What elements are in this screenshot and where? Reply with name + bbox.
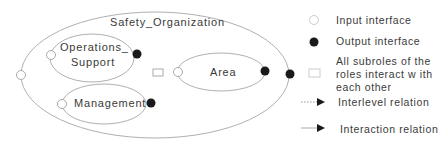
- operations-support-output-icon: [133, 50, 142, 59]
- management-output-icon: [147, 99, 156, 108]
- operations-support-input-icon: [47, 51, 56, 60]
- outer-input-interface-icon: [17, 71, 26, 80]
- area-label: Area: [210, 66, 236, 78]
- legend-interlevel-relation-label: Interlevel relation: [338, 96, 429, 109]
- operations-support-label-line1: Operations_: [60, 41, 126, 53]
- legend-all-subroles-line1: All subroles of the: [336, 55, 431, 68]
- legend-all-subroles-icon: [309, 69, 320, 77]
- safety-organization-label: Safety_Organization: [110, 16, 225, 28]
- management-input-icon: [58, 100, 67, 109]
- operations-support-label-line2: Support: [60, 56, 126, 68]
- outer-output-interface-icon: [286, 70, 295, 79]
- legend-output-interface-icon: [310, 38, 319, 47]
- legend-input-interface-icon: [310, 16, 319, 25]
- legend-output-interface-label: Output interface: [336, 35, 420, 48]
- legend-input-interface-label: Input interface: [336, 14, 412, 27]
- legend-all-subroles-line2: roles interact w ith: [336, 68, 433, 81]
- legend-interaction-relation-label: Interaction relation: [340, 123, 438, 136]
- legend-interaction-arrow-icon: [317, 124, 325, 132]
- legend-all-subroles-line3: each other: [336, 81, 392, 94]
- area-output-icon: [261, 67, 270, 76]
- all-subroles-interact-icon: [153, 69, 163, 76]
- area-input-icon: [174, 68, 183, 77]
- management-label: Management: [74, 97, 146, 109]
- legend-interlevel-arrow-icon: [317, 98, 325, 106]
